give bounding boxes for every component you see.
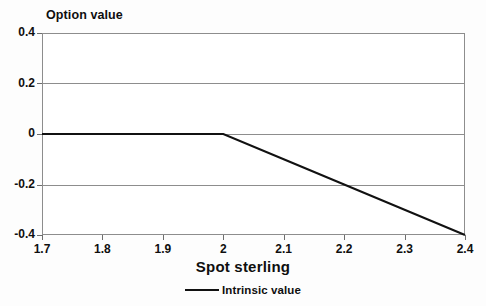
x-axis-title: Spot sterling [0,258,486,275]
chart-figure: Option value 0.40.20-0.2-0.4 1.71.81.922… [0,0,486,306]
y-tick-mark [37,134,42,135]
x-tick-mark [223,235,224,240]
legend-entry: Intrinsic value [185,284,301,296]
x-tick-label: 2.3 [383,242,427,256]
x-tick-mark [465,235,466,240]
x-tick-label: 1.7 [20,242,64,256]
x-tick-mark [163,235,164,240]
x-tick-mark [344,235,345,240]
x-tick-mark [102,235,103,240]
x-tick-label: 2.4 [443,242,486,256]
series-line-intrinsic-value [42,134,465,235]
y-tick-mark [37,83,42,84]
y-tick-mark [37,185,42,186]
plot-area [42,33,465,235]
x-tick-mark [284,235,285,240]
y-tick-label: -0.2 [0,177,35,191]
x-tick-label: 1.8 [80,242,124,256]
x-tick-mark [42,235,43,240]
y-axis-title: Option value [46,8,123,22]
x-tick-label: 2 [201,242,245,256]
legend-line-icon [185,289,219,291]
y-tick-label: 0 [0,126,35,140]
data-layer [42,33,465,235]
y-tick-label: 0.2 [0,76,35,90]
y-tick-label: 0.4 [0,25,35,39]
x-tick-label: 2.2 [322,242,366,256]
x-tick-label: 1.9 [141,242,185,256]
x-tick-mark [405,235,406,240]
chart-legend: Intrinsic value [0,284,486,296]
y-tick-mark [37,33,42,34]
y-tick-label: -0.4 [0,227,35,241]
x-tick-label: 2.1 [262,242,306,256]
legend-label: Intrinsic value [222,284,301,296]
